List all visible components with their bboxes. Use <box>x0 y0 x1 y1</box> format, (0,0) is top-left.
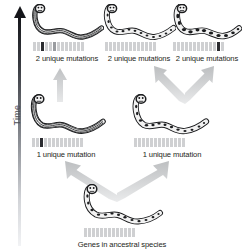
worm-svg <box>102 4 176 42</box>
gene-segment <box>112 228 115 237</box>
gene-segment <box>113 42 116 51</box>
gene-segment <box>132 228 135 237</box>
species-node-descendant-left-2mut: 2 unique mutations <box>30 4 104 63</box>
worm-illustration-ancestral <box>78 184 178 228</box>
gene-segment <box>154 138 157 147</box>
gene-segment <box>48 138 51 147</box>
time-axis: Time <box>8 6 30 246</box>
gene-segment <box>41 42 44 51</box>
gene-segment <box>57 42 60 51</box>
gene-segment <box>88 228 91 237</box>
gene-segment <box>72 138 75 147</box>
gene-segment <box>153 42 156 51</box>
gene-segment <box>158 138 161 147</box>
gene-segment <box>40 138 43 147</box>
gene-segment <box>109 42 112 51</box>
gene-segment <box>96 228 99 237</box>
gene-segment <box>221 42 224 51</box>
gene-segment <box>213 42 216 51</box>
gene-segment <box>105 42 108 51</box>
gene-segment <box>209 42 212 51</box>
gene-segment <box>52 138 55 147</box>
gene-segment <box>45 42 48 51</box>
worm-svg <box>30 4 104 42</box>
worm-svg <box>130 94 210 138</box>
gene-segment <box>49 42 52 51</box>
species-caption: 2 unique mutations <box>168 54 243 63</box>
gene-segment <box>145 42 148 51</box>
gene-segment <box>33 42 36 51</box>
gene-segment <box>84 228 87 237</box>
gene-segment <box>37 42 40 51</box>
gene-segment <box>173 42 176 51</box>
gene-segment <box>138 138 141 147</box>
gene-segment <box>120 228 123 237</box>
gene-segment <box>205 42 208 51</box>
gene-segment <box>177 42 180 51</box>
species-node-descendant-right-2mut: 2 unique mutations <box>172 4 243 63</box>
gene-segment <box>170 138 173 147</box>
gene-segment <box>73 42 76 51</box>
gene-segment <box>116 228 119 237</box>
gene-segment <box>197 42 200 51</box>
gene-segment <box>117 42 120 51</box>
gene-segment <box>193 42 196 51</box>
gene-segment <box>121 42 124 51</box>
species-node-descendant-middle-2mut: 2 unique mutations <box>102 4 176 63</box>
gene-segment <box>133 42 136 51</box>
worm-illustration-striped <box>30 4 104 42</box>
ancestral-caption: Genes in ancestral species <box>66 240 178 249</box>
worm-illustration-spotted <box>130 94 216 138</box>
gene-segment <box>32 138 35 147</box>
gene-segment <box>56 138 59 147</box>
gene-segment <box>146 138 149 147</box>
time-axis-label: Time <box>12 92 22 138</box>
worm-svg <box>172 4 242 42</box>
worm-illustration-blotchy <box>172 4 243 42</box>
gene-segment <box>108 228 111 237</box>
gene-segment <box>166 138 169 147</box>
gene-bar-descendant-middle-2mut <box>105 42 176 51</box>
gene-segment <box>69 42 72 51</box>
gene-segment <box>137 42 140 51</box>
gene-bar-lineage-right-1mut <box>134 138 216 147</box>
gene-segment <box>81 42 84 51</box>
gene-segment <box>64 138 67 147</box>
gene-segment <box>124 228 127 237</box>
gene-segment <box>68 138 71 147</box>
gene-bar-lineage-left-1mut <box>32 138 108 147</box>
gene-segment <box>76 138 79 147</box>
gene-segment <box>201 42 204 51</box>
gene-segment <box>142 138 145 147</box>
gene-segment <box>174 138 177 147</box>
gene-segment <box>178 138 181 147</box>
gene-segment <box>217 42 220 51</box>
gene-segment <box>149 42 152 51</box>
diagram-canvas: Time <box>0 0 243 252</box>
worm-illustration-spotted <box>102 4 176 42</box>
species-caption: 2 unique mutations <box>102 54 176 63</box>
gene-segment <box>77 42 80 51</box>
gene-segment <box>125 42 128 51</box>
gene-segment <box>44 138 47 147</box>
gene-segment <box>185 42 188 51</box>
gene-segment <box>128 228 131 237</box>
species-node-lineage-left-1mut: 1 unique mutation <box>28 94 108 159</box>
gene-segment <box>181 42 184 51</box>
gene-segment <box>162 138 165 147</box>
gene-bar-ancestor <box>84 228 178 237</box>
gene-segment <box>36 138 39 147</box>
gene-segment <box>150 138 153 147</box>
gene-bar-descendant-right-2mut <box>173 42 243 51</box>
gene-segment <box>61 42 64 51</box>
gene-segment <box>141 42 144 51</box>
gene-segment <box>80 138 83 147</box>
gene-segment <box>65 42 68 51</box>
worm-svg <box>78 184 166 228</box>
gene-segment <box>92 228 95 237</box>
gene-segment <box>100 228 103 237</box>
worm-svg <box>28 94 106 138</box>
gene-segment <box>104 228 107 237</box>
species-node-lineage-right-1mut: 1 unique mutation <box>130 94 216 159</box>
species-node-ancestor: Genes in ancestral species <box>78 184 178 249</box>
